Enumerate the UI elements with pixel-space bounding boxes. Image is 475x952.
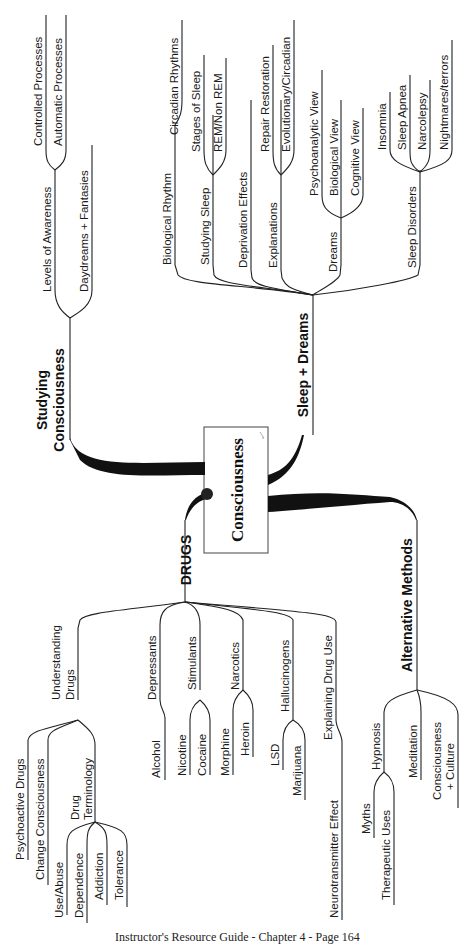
psychoactive-drugs: Psychoactive Drugs xyxy=(14,758,26,860)
understanding-drugs-2: Drugs xyxy=(64,669,76,700)
circadian-rhythms: Circadian Rhythms xyxy=(168,38,180,135)
morphine: Morphine xyxy=(219,728,231,776)
studying-label-2: Consciousness xyxy=(51,348,67,452)
daydreams-fantasies: Daydreams + Fantasies xyxy=(78,170,90,292)
narcotics: Narcotics xyxy=(229,642,241,690)
branch-sleep-dreams: Sleep + Dreams Biological Rhythm Circadi… xyxy=(161,20,452,435)
therapeutic-uses: Therapeutic Uses xyxy=(380,810,392,900)
understanding-drugs-1: Understanding xyxy=(50,625,62,700)
explanations: Explanations xyxy=(267,202,279,268)
hallucinogens: Hallucinogens xyxy=(279,640,291,712)
use-abuse: Use/Abuse xyxy=(53,862,65,918)
lsd: LSD xyxy=(269,744,281,766)
tolerance: Tolerance xyxy=(113,850,125,900)
stimulants: Stimulants xyxy=(186,636,198,690)
nightmares-terrors: Nightmares/terrors xyxy=(438,55,450,150)
consciousness-culture-2: + Culture xyxy=(444,743,456,790)
controlled-processes: Controlled Processes xyxy=(32,36,44,146)
branch-studying-consciousness: Studying Consciousness Levels of Awarene… xyxy=(32,15,92,452)
explaining-drug-use: Explaining Drug Use xyxy=(322,635,334,740)
automatic-processes: Automatic Processes xyxy=(52,38,64,146)
dreams: Dreams xyxy=(327,231,339,272)
drugs-label: DRUGS xyxy=(178,535,194,586)
cocaine: Cocaine xyxy=(196,734,208,776)
consciousness-culture-1: Consciousness xyxy=(431,722,443,800)
repair-restoration: Repair Restoration xyxy=(259,56,271,152)
center-label: Consciousness xyxy=(228,438,247,542)
hypnosis: Hypnosis xyxy=(370,722,382,770)
myths: Myths xyxy=(360,803,372,834)
center-node: Consciousness xyxy=(204,427,268,553)
levels-of-awareness: Levels of Awareness xyxy=(41,186,53,292)
sleep-disorders: Sleep Disorders xyxy=(406,186,418,268)
cognitive-view: Cognitive View xyxy=(349,119,361,196)
deprivation-effects: Deprivation Effects xyxy=(237,171,249,268)
marijuana: Marijuana xyxy=(291,745,303,796)
depressants: Depressants xyxy=(146,635,158,700)
sleep-dreams-label: Sleep + Dreams xyxy=(295,312,311,417)
connector-sleep xyxy=(268,435,304,485)
connector-alternative xyxy=(268,493,417,520)
narcolepsy: Narcolepsy xyxy=(416,92,428,150)
drug-terminology-2: Terminology xyxy=(82,758,94,820)
rem-non-rem: REM/Non REM xyxy=(212,73,224,152)
studying-sleep: Studying Sleep xyxy=(199,188,211,265)
psychoanalytic-view: Psychoanalytic View xyxy=(308,91,320,196)
branch-drugs: DRUGS Understanding Drugs Psychoactive D… xyxy=(14,520,342,923)
page-footer: Instructor's Resource Guide - Chapter 4 … xyxy=(0,930,475,945)
change-consciousness: Change Consciousness xyxy=(34,758,46,880)
insomnia: Insomnia xyxy=(376,103,388,150)
sleep-apnea: Sleep Apnea xyxy=(396,84,408,150)
mind-map: Consciousness Studying Consciousness Lev… xyxy=(0,0,475,952)
neurotransmitter-effect: Neurotransmitter Effect xyxy=(328,799,340,918)
biological-view: Biological View xyxy=(328,118,340,196)
connector-studying xyxy=(70,438,205,476)
stages-of-sleep: Stages of Sleep xyxy=(190,71,202,152)
nicotine: Nicotine xyxy=(176,734,188,776)
heroin: Heroin xyxy=(239,722,251,756)
branch-alternative-methods: Alternative Methods Hypnosis Myths Thera… xyxy=(360,520,458,905)
biological-rhythm: Biological Rhythm xyxy=(161,173,173,265)
dependence: Dependence xyxy=(73,853,85,918)
drug-terminology-1: Drug xyxy=(69,795,81,820)
addiction: Addiction xyxy=(93,853,105,900)
alcohol: Alcohol xyxy=(150,740,162,778)
alternative-methods-label: Alternative Methods xyxy=(399,538,415,672)
meditation: Meditation xyxy=(407,725,419,778)
center-knob xyxy=(201,488,213,500)
evolutionary-circadian: Evolutionary/Circadian xyxy=(280,37,292,152)
studying-label-1: Studying xyxy=(34,370,50,430)
